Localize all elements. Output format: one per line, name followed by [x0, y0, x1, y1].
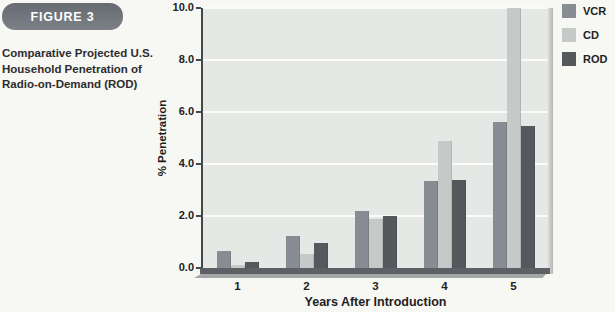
x-tick-label-1: 1 — [226, 280, 250, 292]
legend: VCRCDROD — [562, 4, 607, 76]
bar-vcr-year-3 — [355, 211, 369, 268]
bar-vcr-year-1 — [217, 251, 231, 268]
y-tick-2 — [196, 215, 201, 217]
gridline-6 — [203, 111, 548, 113]
figure-caption: Comparative Projected U.S. Household Pen… — [2, 46, 167, 93]
figure-label-box: FIGURE 3 — [2, 3, 123, 30]
bar-cd-year-5 — [507, 8, 521, 268]
gridline-8 — [203, 59, 548, 61]
figure-caption-line-3: Radio-on-Demand (ROD) — [2, 77, 167, 93]
x-tick-label-3: 3 — [364, 280, 388, 292]
bar-rod-year-3 — [383, 216, 397, 268]
gridline-10 — [203, 7, 548, 9]
legend-item-vcr: VCR — [562, 4, 607, 18]
y-tick-label-0.0: 0.0 — [160, 261, 194, 273]
bar-rod-year-5 — [521, 126, 535, 268]
bar-vcr-year-4 — [424, 181, 438, 268]
figure-3-chart-panel: FIGURE 3 Comparative Projected U.S. Hous… — [0, 0, 615, 312]
bar-vcr-year-5 — [493, 122, 507, 268]
x-tick-label-4: 4 — [433, 280, 457, 292]
plot-area — [203, 8, 548, 268]
y-tick-6 — [196, 111, 201, 113]
x-axis-baseline — [200, 268, 550, 274]
y-axis-line — [201, 8, 204, 274]
x-axis-shadow — [194, 274, 546, 278]
bar-vcr-year-2 — [286, 236, 300, 269]
y-tick-label-2.0: 2.0 — [160, 209, 194, 221]
legend-label-cd: CD — [583, 29, 599, 41]
legend-label-rod: ROD — [583, 53, 607, 65]
y-axis-title: % Penetration — [156, 100, 168, 177]
bar-cd-year-2 — [300, 254, 314, 268]
legend-item-rod: ROD — [562, 52, 607, 66]
figure-caption-line-2: Household Penetration of — [2, 62, 167, 78]
figure-label: FIGURE 3 — [30, 10, 94, 24]
legend-swatch-rod — [562, 52, 576, 66]
plot-right-bevel — [548, 8, 553, 274]
y-tick-4 — [196, 163, 201, 165]
bar-cd-year-3 — [369, 219, 383, 268]
bar-cd-year-4 — [438, 141, 452, 268]
legend-swatch-cd — [562, 28, 576, 42]
y-tick-10 — [196, 7, 201, 9]
y-tick-label-8.0: 8.0 — [160, 53, 194, 65]
legend-item-cd: CD — [562, 28, 607, 42]
x-axis-title: Years After Introduction — [203, 295, 548, 309]
bar-rod-year-4 — [452, 180, 466, 268]
x-tick-label-5: 5 — [502, 280, 526, 292]
bar-rod-year-2 — [314, 243, 328, 268]
y-tick-8 — [196, 59, 201, 61]
figure-caption-line-1: Comparative Projected U.S. — [2, 46, 167, 62]
y-tick-label-10.0: 10.0 — [160, 1, 194, 13]
x-tick-label-2: 2 — [295, 280, 319, 292]
legend-swatch-vcr — [562, 4, 576, 18]
legend-label-vcr: VCR — [583, 5, 606, 17]
